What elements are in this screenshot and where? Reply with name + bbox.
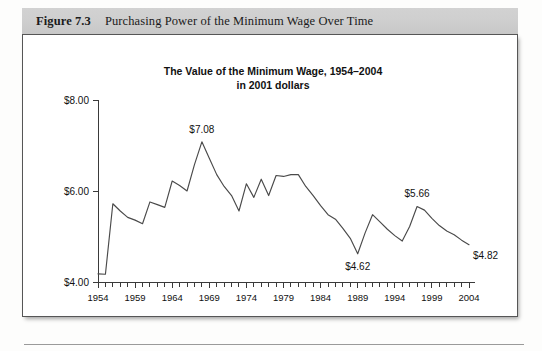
chart-panel: The Value of the Minimum Wage, 1954–2004…	[22, 34, 518, 317]
page-bottom-rule	[24, 344, 524, 345]
x-tick-label: 1984	[310, 292, 331, 303]
chart-title-line-2: in 2001 dollars	[237, 79, 310, 91]
data-point-annotation: $5.66	[405, 188, 430, 199]
data-point-annotation: $4.62	[345, 261, 370, 272]
figure-caption-text: Purchasing Power of the Minimum Wage Ove…	[105, 14, 373, 29]
x-tick-label: 1954	[87, 292, 108, 303]
x-tick-label: 1969	[199, 292, 220, 303]
data-point-annotation: $4.82	[473, 250, 498, 261]
figure-root: Figure 7.3 Purchasing Power of the Minim…	[0, 0, 542, 351]
data-annotations: $7.08$4.62$5.66$4.82	[189, 124, 498, 272]
y-axis-ticks	[93, 100, 98, 282]
y-tick-label: $4.00	[64, 277, 89, 288]
x-tick-label: 1974	[236, 292, 257, 303]
data-point-annotation: $7.08	[189, 124, 214, 135]
x-tick-label: 1999	[421, 292, 442, 303]
y-tick-label: $6.00	[64, 186, 89, 197]
x-tick-label: 1989	[347, 292, 368, 303]
x-axis: 1954195919641969197419791984198919941999…	[87, 282, 479, 303]
x-tick-label: 1964	[162, 292, 183, 303]
x-tick-label: 1994	[384, 292, 405, 303]
figure-caption-bar: Figure 7.3 Purchasing Power of the Minim…	[22, 8, 518, 34]
x-axis-ticks	[98, 282, 469, 288]
x-tick-label: 1959	[125, 292, 146, 303]
x-tick-label: 1979	[273, 292, 294, 303]
figure-number: Figure 7.3	[36, 14, 91, 29]
minimum-wage-series-line	[98, 142, 469, 274]
y-axis-tick-labels: $8.00$6.00$4.00	[64, 95, 89, 288]
chart-title-line-1: The Value of the Minimum Wage, 1954–2004	[164, 65, 383, 77]
y-axis: $8.00$6.00$4.00	[64, 95, 98, 288]
x-tick-label: 2004	[458, 292, 479, 303]
y-tick-label: $8.00	[64, 95, 89, 106]
x-axis-tick-labels: 1954195919641969197419791984198919941999…	[87, 292, 479, 303]
minimum-wage-line-chart: The Value of the Minimum Wage, 1954–2004…	[23, 35, 517, 316]
